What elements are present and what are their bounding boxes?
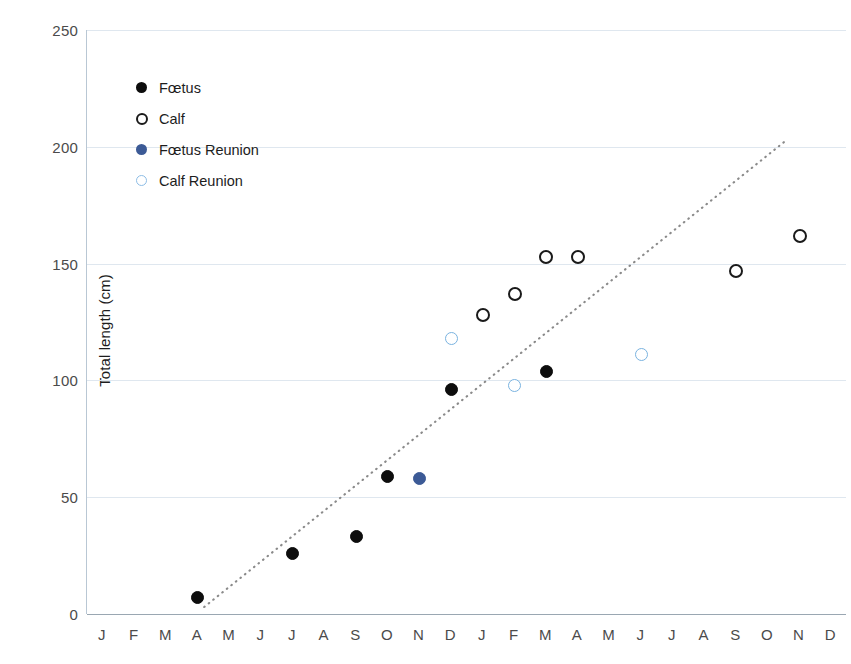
data-point bbox=[729, 264, 743, 278]
x-tick-label-10: N bbox=[406, 626, 432, 643]
x-tick-label-9: O bbox=[374, 626, 400, 643]
circle-icon bbox=[136, 82, 147, 93]
data-point bbox=[445, 383, 458, 396]
gridline-50 bbox=[87, 497, 846, 498]
data-point bbox=[286, 547, 299, 560]
data-point bbox=[540, 365, 553, 378]
legend-item-label: Fœtus Reunion bbox=[159, 142, 259, 158]
legend-marker-icon bbox=[136, 82, 154, 93]
y-tick-label-50: 50 bbox=[8, 489, 78, 506]
scatter-chart: Total length (cm) 050100150200250 JFMAMJ… bbox=[0, 0, 851, 664]
x-tick-label-22: N bbox=[786, 626, 812, 643]
x-tick-label-19: A bbox=[691, 626, 717, 643]
x-tick-label-12: J bbox=[469, 626, 495, 643]
data-point bbox=[381, 470, 394, 483]
data-point bbox=[508, 379, 521, 392]
legend-marker-icon bbox=[136, 113, 154, 125]
x-tick-label-23: D bbox=[817, 626, 843, 643]
legend-item-label: Calf Reunion bbox=[159, 173, 243, 189]
data-point bbox=[191, 591, 204, 604]
data-point bbox=[539, 250, 553, 264]
gridline-100 bbox=[87, 380, 846, 381]
circle-icon bbox=[136, 113, 148, 125]
x-tick-label-21: O bbox=[754, 626, 780, 643]
x-tick-label-0: J bbox=[89, 626, 115, 643]
legend-item-label: Fœtus bbox=[159, 80, 201, 96]
data-point bbox=[445, 332, 458, 345]
y-tick-label-200: 200 bbox=[8, 138, 78, 155]
data-point bbox=[350, 530, 363, 543]
circle-icon bbox=[136, 175, 147, 186]
data-point bbox=[413, 472, 426, 485]
chart-legend: FœtusCalfFœtus ReunionCalf Reunion bbox=[136, 72, 366, 196]
data-point bbox=[571, 250, 585, 264]
x-tick-label-20: S bbox=[722, 626, 748, 643]
x-tick-label-4: M bbox=[216, 626, 242, 643]
x-tick-label-1: F bbox=[121, 626, 147, 643]
legend-item-fetus: Fœtus bbox=[136, 72, 366, 103]
x-tick-label-8: S bbox=[342, 626, 368, 643]
x-tick-label-18: J bbox=[659, 626, 685, 643]
legend-item-fetus-reunion: Fœtus Reunion bbox=[136, 134, 366, 165]
x-tick-label-3: A bbox=[184, 626, 210, 643]
x-tick-label-7: A bbox=[311, 626, 337, 643]
x-tick-label-13: F bbox=[501, 626, 527, 643]
x-tick-label-17: J bbox=[627, 626, 653, 643]
data-point bbox=[508, 287, 522, 301]
legend-item-calf: Calf bbox=[136, 103, 366, 134]
y-tick-label-0: 0 bbox=[8, 606, 78, 623]
y-tick-label-250: 250 bbox=[8, 22, 78, 39]
gridline-0 bbox=[87, 614, 846, 615]
circle-icon bbox=[136, 144, 147, 155]
x-tick-label-11: D bbox=[437, 626, 463, 643]
x-tick-label-14: M bbox=[532, 626, 558, 643]
legend-item-label: Calf bbox=[159, 111, 185, 127]
x-tick-label-2: M bbox=[152, 626, 178, 643]
data-point bbox=[635, 348, 648, 361]
x-tick-label-6: J bbox=[279, 626, 305, 643]
data-point bbox=[793, 229, 807, 243]
x-tick-label-15: A bbox=[564, 626, 590, 643]
y-tick-label-100: 100 bbox=[8, 372, 78, 389]
gridline-250 bbox=[87, 30, 846, 31]
x-tick-label-16: M bbox=[596, 626, 622, 643]
legend-marker-icon bbox=[136, 144, 154, 155]
legend-marker-icon bbox=[136, 175, 154, 186]
legend-item-calf-reunion: Calf Reunion bbox=[136, 165, 366, 196]
data-point bbox=[476, 308, 490, 322]
x-tick-label-5: J bbox=[247, 626, 273, 643]
y-tick-label-150: 150 bbox=[8, 255, 78, 272]
